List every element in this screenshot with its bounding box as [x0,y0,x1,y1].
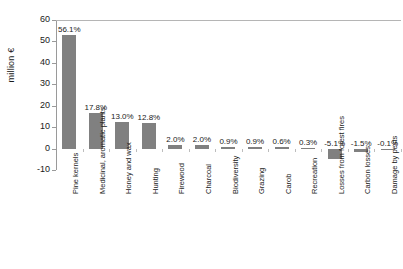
x-category-label: Pine kernels [72,153,80,194]
bar [275,147,289,149]
y-tick-label: 20 [40,100,50,110]
bar-chart: million € 6050403020100-10 56.1%17.8%13.… [0,0,403,269]
y-tick-label: 10 [40,121,50,131]
y-tick-label: 30 [40,78,50,88]
y-axis-title: million € [6,30,16,100]
x-category-label: Medicinal, aromatic plants [99,107,107,194]
x-category-label: Recreation [311,158,319,194]
bar [62,35,76,149]
bar [301,148,315,150]
x-category-label: Carob [285,174,293,194]
y-tick-label: 40 [40,57,50,67]
bar-item: 0.9% [242,20,269,170]
x-minor-tick [401,149,402,152]
bar-item: 0.9% [215,20,242,170]
x-category-label: Firewood [178,163,186,194]
bar [248,147,262,149]
bar [221,147,235,149]
bar [168,145,182,149]
x-category-label: Damage by pests [391,136,399,194]
bar-item: 0.6% [268,20,295,170]
bar-item: 56.1% [56,20,83,170]
y-tick-label: -10 [37,164,50,174]
y-tick-label: 50 [40,35,50,45]
bar-item: 2.0% [189,20,216,170]
x-category-label: Charcoal [205,164,213,194]
x-category-label: Losses from forest fires [338,116,346,194]
x-category-label: Carbon losses [364,146,372,194]
bar-item: 12.8% [136,20,163,170]
x-category-label: Grazing [258,168,266,194]
x-category-label: Honey and wax [125,142,133,194]
x-category-label: Hunting [152,168,160,194]
y-tick-mark [52,170,56,171]
plot-area: 6050403020100-10 56.1%17.8%13.0%12.8%2.0… [56,20,401,170]
y-tick-label: 0 [45,143,50,153]
bar [195,145,209,149]
bar-item: 2.0% [162,20,189,170]
y-tick-label: 60 [40,14,50,24]
bar [142,123,156,149]
x-category-label: Biodiversity [232,156,240,194]
